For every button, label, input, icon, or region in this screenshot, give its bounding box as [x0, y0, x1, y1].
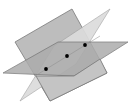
point-2: [65, 54, 69, 58]
point-3: [83, 43, 87, 47]
three-planes-diagram: [0, 0, 130, 102]
point-1: [44, 67, 48, 71]
